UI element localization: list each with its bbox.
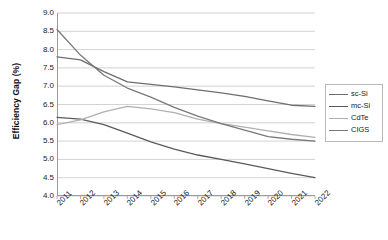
y-axis-tick-label: 5.0 (28, 155, 54, 163)
series-canvas (57, 13, 315, 196)
legend-item-label: sc-Si (351, 90, 368, 98)
y-axis-tick-label: 4.5 (28, 174, 54, 182)
plot-area (57, 13, 315, 196)
legend-item-label: CdTe (351, 114, 369, 122)
legend-color-swatch (329, 106, 348, 107)
y-axis-tick-label: 5.5 (28, 137, 54, 145)
y-axis-tick-label: 8.0 (28, 46, 54, 54)
legend-item-sc-si[interactable]: sc-Si (328, 88, 380, 100)
legend-color-swatch (329, 118, 348, 119)
legend-item-cigs[interactable]: CIGS (328, 124, 380, 136)
y-axis-title: Efficiency Gap (%) (11, 41, 21, 161)
y-axis-tick-label: 6.5 (28, 101, 54, 109)
legend: sc-Simc-SiCdTeCIGS (325, 84, 383, 142)
y-axis-tick-label: 9.0 (28, 9, 54, 17)
y-axis-tick-label: 7.5 (28, 64, 54, 72)
line-chart: Efficiency Gap (%) 9.08.58.07.57.06.56.0… (0, 0, 388, 240)
y-axis-tick-label: 6.0 (28, 119, 54, 127)
y-axis-tick-label: 7.0 (28, 82, 54, 90)
y-axis-tick-label: 4.0 (28, 192, 54, 200)
legend-item-label: mc-Si (351, 102, 370, 110)
y-axis-tick-label: 8.5 (28, 27, 54, 35)
legend-item-cdte[interactable]: CdTe (328, 112, 380, 124)
x-axis-tick-labels: 2011201220132014201520162017201820192020… (57, 198, 315, 238)
legend-item-label: CIGS (351, 126, 369, 134)
x-axis-tick-label: 2022 (313, 188, 332, 207)
legend-color-swatch (329, 130, 348, 131)
legend-color-swatch (329, 94, 348, 95)
legend-item-mc-si[interactable]: mc-Si (328, 100, 380, 112)
y-axis-tick-labels: 9.08.58.07.57.06.56.05.55.04.54.0 (24, 13, 54, 196)
